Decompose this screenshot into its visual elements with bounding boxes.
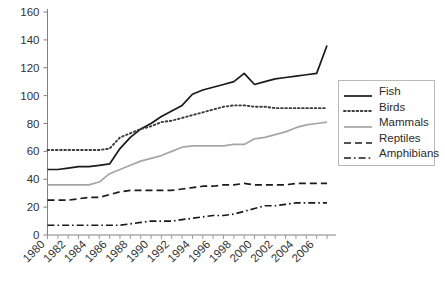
series-line-amphibians — [48, 203, 328, 225]
x-tick-label: 1998 — [207, 238, 234, 265]
legend-label: Fish — [379, 86, 401, 98]
y-tick-label: 100 — [20, 90, 39, 102]
y-axis: 020406080100120140160 — [20, 6, 47, 241]
legend-item-birds[interactable]: Birds — [339, 100, 434, 116]
legend-swatch-mammals — [343, 118, 373, 128]
legend-label: Amphibians — [379, 148, 439, 160]
x-tick-label: 1984 — [62, 238, 89, 265]
legend-swatch-fish — [343, 87, 373, 97]
legend-swatch-birds — [343, 102, 373, 112]
series-line-reptiles — [48, 183, 328, 200]
x-tick-label: 1986 — [82, 238, 109, 265]
legend-label: Reptiles — [379, 133, 421, 145]
legend-swatch-amphibians — [343, 149, 373, 159]
x-tick-label: 1982 — [41, 238, 68, 265]
x-tick-label: 2006 — [289, 238, 316, 265]
x-tick-label: 1988 — [103, 238, 130, 265]
y-tick-label: 40 — [27, 173, 40, 185]
x-tick-label: 1994 — [165, 238, 192, 265]
series-layer — [48, 45, 328, 225]
y-tick-label: 60 — [27, 145, 40, 157]
legend-swatch-reptiles — [343, 134, 373, 144]
x-tick-label: 2000 — [227, 238, 254, 265]
x-tick-label: 1996 — [186, 238, 213, 265]
x-tick-label: 1990 — [124, 238, 151, 265]
y-tick-label: 120 — [20, 62, 39, 74]
x-tick-label: 1980 — [20, 238, 47, 265]
y-tick-label: 80 — [27, 118, 40, 130]
legend-label: Birds — [379, 102, 405, 114]
legend-item-reptiles[interactable]: Reptiles — [339, 131, 434, 147]
y-tick-label: 20 — [27, 201, 40, 213]
legend-item-mammals[interactable]: Mammals — [339, 115, 434, 131]
legend-label: Mammals — [379, 117, 429, 129]
x-tick-label: 2004 — [269, 238, 296, 265]
series-line-mammals — [48, 122, 328, 185]
chart-legend: FishBirdsMammalsReptilesAmphibians — [338, 80, 435, 166]
x-axis: 1980198219841986198819901992199419961998… — [20, 235, 336, 265]
legend-item-fish[interactable]: Fish — [339, 84, 434, 100]
y-tick-label: 160 — [20, 6, 39, 18]
legend-item-amphibians[interactable]: Amphibians — [339, 146, 434, 162]
x-tick-label: 1992 — [145, 238, 172, 265]
y-tick-label: 140 — [20, 34, 39, 46]
x-tick-label: 2002 — [248, 238, 275, 265]
series-line-birds — [48, 105, 328, 150]
line-chart: 020406080100120140160 198019821984198619… — [0, 0, 445, 285]
